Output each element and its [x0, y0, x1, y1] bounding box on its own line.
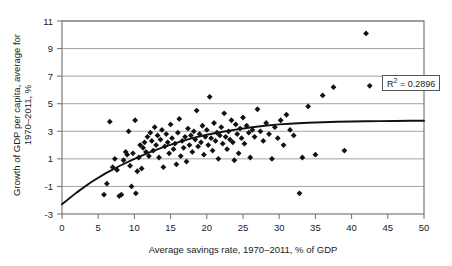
- svg-text:1: 1: [48, 153, 53, 164]
- svg-text:40: 40: [346, 222, 357, 233]
- gridlines: [62, 21, 424, 186]
- svg-text:5: 5: [48, 98, 53, 109]
- svg-text:0: 0: [59, 222, 64, 233]
- svg-text:5: 5: [96, 222, 101, 233]
- scatter-plot-canvas: 05101520253035404550 -3-11357911: [0, 0, 452, 266]
- svg-text:35: 35: [310, 222, 321, 233]
- trend-line: [62, 121, 424, 205]
- svg-text:25: 25: [238, 222, 249, 233]
- data-points: [101, 31, 373, 199]
- svg-text:9: 9: [48, 43, 53, 54]
- x-axis-ticks: 05101520253035404550: [59, 214, 429, 233]
- svg-text:-1: -1: [45, 181, 53, 192]
- svg-text:10: 10: [129, 222, 140, 233]
- svg-text:20: 20: [202, 222, 213, 233]
- svg-text:45: 45: [383, 222, 394, 233]
- svg-text:-3: -3: [45, 209, 53, 220]
- svg-text:30: 30: [274, 222, 285, 233]
- svg-text:3: 3: [48, 126, 53, 137]
- svg-text:15: 15: [165, 222, 176, 233]
- r-squared-suffix: = 0.2896: [397, 79, 435, 89]
- svg-text:7: 7: [48, 71, 53, 82]
- x-axis-title: Average savings rate, 1970–2011, % of GD…: [62, 244, 424, 255]
- chart-figure: Growth of GDP per capita, average for 19…: [0, 0, 452, 266]
- svg-text:50: 50: [419, 222, 430, 233]
- r-squared-annotation: R2 = 0.2896: [382, 75, 440, 91]
- svg-text:11: 11: [43, 16, 53, 27]
- y-axis-ticks: -3-11357911: [43, 16, 62, 220]
